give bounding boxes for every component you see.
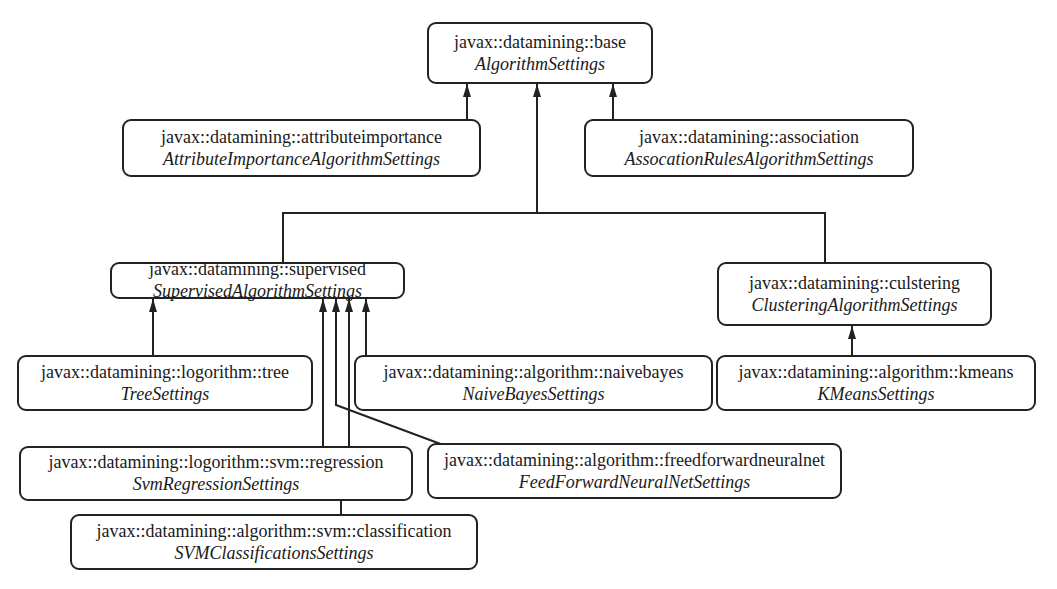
- node-package: javax::datamining::logorithm::tree: [19, 362, 311, 383]
- node-class: AttributeImportanceAlgorithmSettings: [124, 148, 479, 170]
- node-class: SupervisedAlgorithmSettings: [112, 280, 403, 302]
- node-package: javax::datamining::algorithm::kmeans: [718, 362, 1034, 383]
- arrow-icon: [848, 326, 856, 339]
- node-base: javax::datamining::base AlgorithmSetting…: [427, 22, 653, 84]
- node-class: NaiveBayesSettings: [356, 383, 711, 405]
- node-package: javax::datamining::attributeimportance: [124, 127, 479, 148]
- node-class: ClusteringAlgorithmSettings: [719, 294, 990, 316]
- node-package: javax::datamining::algorithm::svm::class…: [72, 521, 476, 542]
- node-association: javax::datamining::association Assocatio…: [584, 119, 914, 177]
- arrow-icon: [609, 84, 617, 97]
- node-package: javax::datamining::logorithm::svm::regre…: [21, 452, 411, 473]
- node-feedforward: javax::datamining::algorithm::freedforwa…: [427, 443, 842, 499]
- node-class: KMeansSettings: [718, 383, 1034, 405]
- edge-supervised-branch: [283, 213, 825, 262]
- node-class: AlgorithmSettings: [429, 53, 651, 75]
- node-attributeimportance: javax::datamining::attributeimportance A…: [122, 119, 481, 177]
- node-svm-regression: javax::datamining::logorithm::svm::regre…: [19, 446, 413, 501]
- node-naivebayes: javax::datamining::algorithm::naivebayes…: [354, 355, 713, 411]
- node-supervised: javax::datamining::supervised Supervised…: [110, 262, 405, 299]
- node-package: javax::datamining::algorithm::freedforwa…: [429, 450, 840, 471]
- arrow-icon: [463, 84, 471, 97]
- node-class: AssocationRulesAlgorithmSettings: [586, 148, 912, 170]
- node-package: javax::datamining::algorithm::naivebayes: [356, 362, 711, 383]
- node-clustering: javax::datamining::culstering Clustering…: [717, 262, 992, 326]
- node-class: FeedForwardNeuralNetSettings: [429, 471, 840, 493]
- node-package: javax::datamining::supervised: [112, 259, 403, 280]
- node-class: SvmRegressionSettings: [21, 473, 411, 495]
- node-package: javax::datamining::culstering: [719, 273, 990, 294]
- node-svm-classification: javax::datamining::algorithm::svm::class…: [70, 514, 478, 570]
- node-package: javax::datamining::association: [586, 127, 912, 148]
- node-kmeans: javax::datamining::algorithm::kmeans KMe…: [716, 355, 1036, 411]
- arrow-icon: [533, 84, 541, 97]
- node-class: SVMClassificationsSettings: [72, 542, 476, 564]
- node-class: TreeSettings: [19, 383, 311, 405]
- node-package: javax::datamining::base: [429, 32, 651, 53]
- node-tree: javax::datamining::logorithm::tree TreeS…: [17, 355, 313, 411]
